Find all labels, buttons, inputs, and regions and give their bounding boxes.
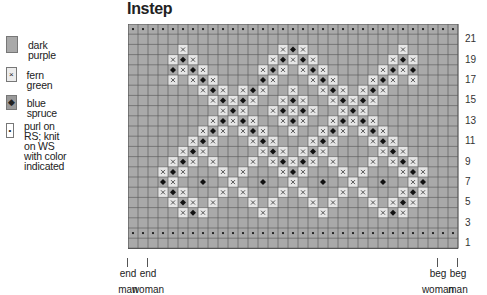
beg-man-label: begman: [438, 266, 478, 295]
row-label: 19: [465, 54, 476, 65]
legend-label: purl on RS; knit on WS with color indica…: [24, 121, 71, 171]
purl-dot-icon: [282, 28, 284, 30]
purl-dot-icon: [412, 232, 414, 234]
purl-dot-icon: [432, 28, 434, 30]
purl-dot-icon: [392, 232, 394, 234]
purl-dot-icon: [292, 28, 294, 30]
purl-dot-icon: [222, 28, 224, 30]
purl-dot-icon: [132, 28, 134, 30]
marker-line1: beg: [438, 266, 478, 282]
dot-icon: •: [6, 123, 14, 138]
purl-dot-icon: [382, 28, 384, 30]
purl-dot-icon: [222, 232, 224, 234]
purl-dot-icon: [242, 232, 244, 234]
row-label: 5: [465, 196, 471, 207]
row-label: 21: [465, 33, 476, 44]
purl-dot-icon: [352, 232, 354, 234]
purl-dot-icon: [142, 232, 144, 234]
legend-item-fern-green: × fern green: [6, 67, 57, 90]
purl-dot-icon: [232, 28, 234, 30]
purl-dot-icon: [272, 28, 274, 30]
purl-dot-icon: [432, 232, 434, 234]
purl-dot-icon: [332, 232, 334, 234]
row-label: 9: [465, 156, 471, 167]
purl-dot-icon: [252, 232, 254, 234]
legend-label: fern green: [27, 70, 57, 90]
purl-dot-icon: [262, 232, 264, 234]
purl-dot-icon: [192, 232, 194, 234]
purl-dot-icon: [352, 28, 354, 30]
purl-dot-icon: [412, 28, 414, 30]
purl-dot-icon: [142, 28, 144, 30]
purl-dot-icon: [452, 232, 454, 234]
purl-dot-icon: [392, 28, 394, 30]
row-label: 13: [465, 115, 476, 126]
purl-dot-icon: [212, 232, 214, 234]
marker-line2: woman: [128, 282, 168, 295]
purl-dot-icon: [292, 232, 294, 234]
purl-dot-icon: [452, 28, 454, 30]
purl-dot-icon: [192, 28, 194, 30]
purl-dot-icon: [402, 232, 404, 234]
instep-chart-grid: [128, 24, 459, 250]
purl-dot-icon: [312, 28, 314, 30]
purl-dot-icon: [402, 28, 404, 30]
marker-line1: end: [128, 266, 168, 282]
dark-purple-swatch-icon: [6, 36, 18, 53]
purl-dot-icon: [362, 232, 364, 234]
purl-dot-icon: [382, 232, 384, 234]
purl-dot-icon: [162, 232, 164, 234]
purl-dot-icon: [422, 232, 424, 234]
row-label: 7: [465, 176, 471, 187]
purl-dot-icon: [372, 232, 374, 234]
row-label: 3: [465, 217, 471, 228]
legend-item-dark-purple: dark purple: [6, 36, 61, 60]
purl-dot-icon: [262, 28, 264, 30]
purl-dot-icon: [182, 232, 184, 234]
purl-dot-icon: [362, 28, 364, 30]
row-label: 11: [465, 135, 475, 146]
purl-dot-icon: [252, 28, 254, 30]
legend-label: blue spruce: [27, 98, 62, 118]
purl-dot-icon: [322, 232, 324, 234]
purl-dot-icon: [332, 28, 334, 30]
purl-dot-icon: [372, 28, 374, 30]
chart-title: Instep: [127, 0, 172, 18]
purl-dot-icon: [152, 232, 154, 234]
purl-dot-icon: [212, 28, 214, 30]
cross-icon: ×: [6, 67, 17, 82]
purl-dot-icon: [322, 28, 324, 30]
purl-dot-icon: [342, 232, 344, 234]
legend-label: dark purple: [28, 40, 61, 60]
legend-item-purl: • purl on RS; knit on WS with color indi…: [6, 121, 71, 171]
row-label: 1: [465, 237, 471, 248]
purl-dot-icon: [302, 232, 304, 234]
purl-dot-icon: [172, 232, 174, 234]
purl-dot-icon: [422, 28, 424, 30]
purl-dot-icon: [162, 28, 164, 30]
legend-item-blue-spruce: ◆ blue spruce: [6, 95, 61, 118]
purl-dot-icon: [152, 28, 154, 30]
row-label: 15: [465, 94, 476, 105]
purl-dot-icon: [132, 232, 134, 234]
purl-dot-icon: [202, 28, 204, 30]
purl-dot-icon: [302, 28, 304, 30]
purl-dot-icon: [172, 28, 174, 30]
diamond-icon: ◆: [6, 95, 17, 110]
end-woman-label: endwoman: [128, 266, 168, 295]
purl-dot-icon: [182, 28, 184, 30]
purl-dot-icon: [232, 232, 234, 234]
row-label: 17: [465, 74, 476, 85]
purl-dot-icon: [202, 232, 204, 234]
purl-dot-icon: [272, 232, 274, 234]
purl-dot-icon: [312, 232, 314, 234]
marker-line2: man: [438, 282, 478, 295]
purl-dot-icon: [442, 232, 444, 234]
purl-dot-icon: [282, 232, 284, 234]
purl-dot-icon: [342, 28, 344, 30]
purl-dot-icon: [442, 28, 444, 30]
purl-dot-icon: [242, 28, 244, 30]
